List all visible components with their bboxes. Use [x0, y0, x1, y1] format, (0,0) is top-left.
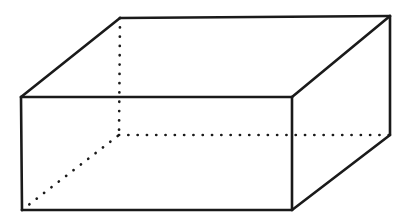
rectangular-prism-diagram: [0, 0, 413, 224]
prism-faces: [21, 16, 390, 210]
face-front: [21, 97, 292, 210]
front-left-edge: [21, 97, 22, 210]
figure-container: [0, 0, 413, 224]
